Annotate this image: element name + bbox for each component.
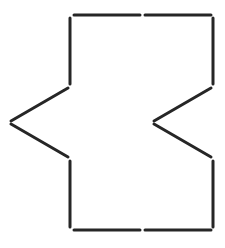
stick-right-upper-diag [154, 88, 211, 121]
stick-left-upper-diag [11, 88, 68, 121]
matchstick-diagram [0, 0, 225, 248]
stick-group [11, 15, 213, 230]
stick-left-lower-diag [11, 124, 68, 157]
stick-right-lower-diag [154, 124, 211, 157]
